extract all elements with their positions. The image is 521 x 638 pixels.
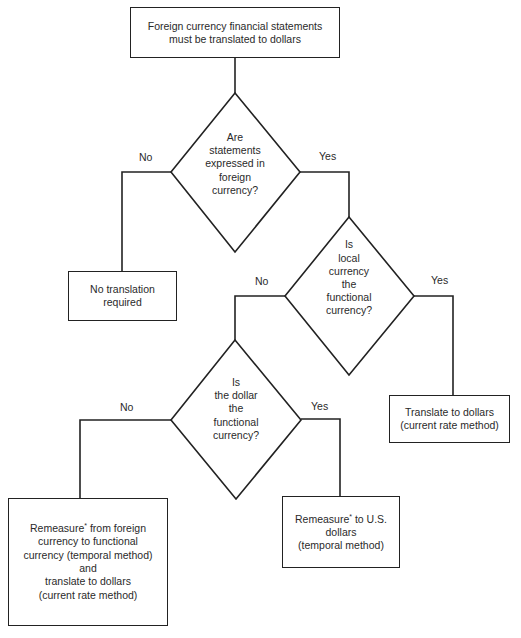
decision-2-line: functional: [327, 291, 372, 304]
decision-3-no-label: No: [120, 401, 133, 413]
edge-d3-yes: [301, 419, 340, 497]
outcome-4-line: dollars: [326, 526, 357, 539]
outcome-3-line: currency to functional: [38, 535, 138, 548]
decision-1-line: currency?: [212, 184, 258, 197]
outcome-3-line-rest: from foreign: [87, 522, 146, 534]
outcome-2-line: Translate to dollars: [405, 406, 494, 419]
outcome-3-line: and: [79, 562, 97, 575]
decision-3-line: functional: [214, 416, 259, 429]
edge-d2-yes: [414, 296, 453, 395]
outcome-4-line: (temporal method): [298, 539, 384, 552]
decision-1-line: expressed in: [205, 157, 265, 170]
outcome-1-line: required: [103, 296, 142, 309]
decision-1-no-label: No: [139, 151, 152, 163]
decision-3-line: currency?: [213, 429, 259, 442]
outcome-1-line: No translation: [90, 283, 155, 296]
decision-2-line: local: [338, 252, 360, 265]
outcome-4-line-rest: to U.S.: [352, 513, 387, 525]
edge-d3-no: [80, 420, 171, 498]
decision-1-line: Are: [227, 131, 243, 144]
remeasure-to-usd-box: Remeasure* to U.S. dollars (temporal met…: [282, 496, 400, 568]
decision-2-line: the: [342, 278, 357, 291]
decision-2-text: Is local currency the functional currenc…: [299, 238, 399, 318]
remeasure-word: Remeasure: [30, 522, 84, 534]
outcome-3-line: translate to dollars: [45, 575, 131, 588]
remeasure-and-translate-box: Remeasure* from foreign currency to func…: [8, 498, 168, 626]
edge-d2-no: [235, 296, 285, 340]
decision-3-line: Is: [232, 376, 240, 389]
start-line-1: Foreign currency financial statements: [148, 20, 323, 33]
decision-2-yes-label: Yes: [431, 274, 448, 286]
outcome-3-line: currency (temporal method): [24, 549, 153, 562]
decision-3-line: the dollar: [214, 389, 257, 402]
decision-1-text: Are statements expressed in foreign curr…: [185, 131, 285, 197]
outcome-3-line: Remeasure* from foreign: [30, 522, 146, 535]
decision-2-line: Is: [345, 238, 353, 251]
outcome-2-line: (current rate method): [400, 419, 499, 432]
outcome-4-line: Remeasure* to U.S.: [295, 513, 387, 526]
remeasure-word: Remeasure: [295, 513, 349, 525]
decision-3-line: the: [229, 402, 244, 415]
decision-3-yes-label: Yes: [311, 400, 328, 412]
decision-2-no-label: No: [255, 275, 268, 287]
decision-2-line: currency: [329, 265, 369, 278]
start-line-2: must be translated to dollars: [169, 33, 301, 46]
decision-1-line: foreign: [219, 171, 251, 184]
edge-d1-no: [122, 172, 171, 271]
decision-1-line: statements: [209, 144, 260, 157]
decision-2-line: currency?: [326, 304, 372, 317]
decision-3-text: Is the dollar the functional currency?: [186, 376, 286, 442]
decision-1-yes-label: Yes: [319, 150, 336, 162]
start-box: Foreign currency financial statements mu…: [130, 7, 340, 58]
translate-current-rate-box: Translate to dollars (current rate metho…: [389, 395, 510, 443]
edge-d1-yes: [300, 172, 349, 217]
no-translation-box: No translation required: [68, 271, 177, 321]
outcome-3-line: (current rate method): [39, 589, 138, 602]
